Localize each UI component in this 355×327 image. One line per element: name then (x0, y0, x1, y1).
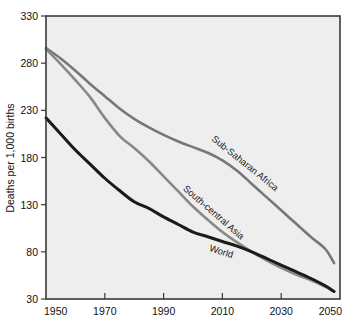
chart-canvas: 3080130180230280330 19501970199020102030… (0, 0, 355, 327)
x-tick-label: 1970 (93, 305, 117, 317)
y-tick-label: 280 (20, 57, 38, 69)
x-tick-label: 2050 (319, 305, 343, 317)
x-tick-label: 1990 (152, 305, 176, 317)
x-tick-label: 1950 (44, 305, 68, 317)
y-tick-label: 230 (20, 104, 38, 116)
y-tick-label: 30 (26, 293, 38, 305)
y-tick-label: 330 (20, 10, 38, 22)
y-axis-title: Deaths per 1,000 births (4, 103, 16, 212)
plot-background (46, 16, 340, 299)
x-axis-tick-labels: 195019701990201020302050 (44, 305, 342, 317)
y-axis-tick-labels: 3080130180230280330 (20, 10, 38, 305)
y-tick-label: 80 (26, 246, 38, 258)
x-tick-label: 2010 (211, 305, 235, 317)
line-chart: 3080130180230280330 19501970199020102030… (0, 0, 355, 327)
y-tick-label: 130 (20, 199, 38, 211)
y-tick-label: 180 (20, 152, 38, 164)
x-tick-label: 2030 (270, 305, 294, 317)
